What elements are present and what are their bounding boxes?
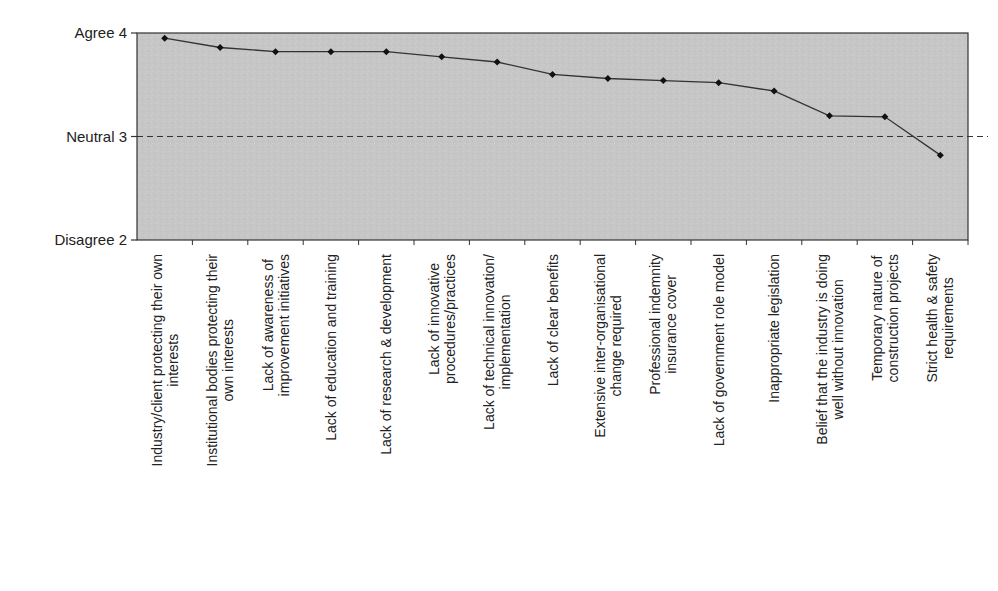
x-category-label: Lack of awareness ofimprovement initiati… — [260, 254, 292, 396]
svg-text:Lack of education and training: Lack of education and training — [323, 254, 339, 441]
y-tick-label: Neutral 3 — [66, 128, 127, 145]
x-axis-ticks — [192, 240, 968, 245]
x-category-label: Lack of technical innovation/implementat… — [481, 254, 513, 430]
svg-text:Lack of research & development: Lack of research & development — [378, 254, 394, 455]
x-category-label: Lack of government role model — [711, 254, 727, 446]
svg-text:Strict health & safety: Strict health & safety — [924, 254, 940, 382]
x-category-label: Extensive inter-organisationalchange req… — [592, 254, 624, 438]
svg-text:Lack of innovative: Lack of innovative — [426, 263, 442, 375]
x-category-label: Inappropriate legislation — [766, 254, 782, 403]
svg-text:Inappropriate legislation: Inappropriate legislation — [766, 254, 782, 403]
svg-text:requirements: requirements — [940, 277, 956, 359]
x-category-label: Professional indemnityinsurance cover — [647, 254, 679, 395]
svg-text:Extensive inter-organisational: Extensive inter-organisational — [592, 254, 608, 438]
y-tick-label: Agree 4 — [74, 24, 127, 41]
x-category-label: Temporary nature ofconstruction projects — [869, 254, 901, 382]
svg-text:Lack of clear benefits: Lack of clear benefits — [545, 254, 561, 386]
svg-text:implementation: implementation — [497, 294, 513, 389]
svg-text:change required: change required — [608, 295, 624, 396]
svg-text:procedures/practices: procedures/practices — [442, 254, 458, 384]
svg-text:well without innovation: well without innovation — [830, 279, 846, 420]
svg-text:interests: interests — [165, 334, 181, 387]
svg-text:Industry/client protecting the: Industry/client protecting their own — [149, 254, 165, 466]
x-category-label: Institutional bodies protecting theirown… — [204, 254, 236, 467]
svg-text:insurance cover: insurance cover — [663, 275, 679, 374]
svg-text:Temporary nature of: Temporary nature of — [869, 255, 885, 380]
x-category-label: Lack of research & development — [378, 254, 394, 455]
svg-text:Lack of awareness of: Lack of awareness of — [260, 259, 276, 391]
svg-text:Lack of government role model: Lack of government role model — [711, 254, 727, 446]
svg-text:own interests: own interests — [220, 319, 236, 401]
svg-text:Institutional bodies protectin: Institutional bodies protecting their — [204, 254, 220, 467]
x-category-label: Industry/client protecting their owninte… — [149, 254, 181, 466]
svg-text:construction projects: construction projects — [885, 254, 901, 382]
x-category-label: Lack of education and training — [323, 254, 339, 441]
x-category-label: Lack of clear benefits — [545, 254, 561, 386]
svg-text:improvement initiatives: improvement initiatives — [276, 254, 292, 396]
y-tick-label: Disagree 2 — [54, 231, 127, 248]
svg-text:Professional indemnity: Professional indemnity — [647, 254, 663, 395]
x-axis-labels: Industry/client protecting their owninte… — [149, 254, 957, 467]
svg-text:Belief that the industry is do: Belief that the industry is doing — [814, 254, 830, 445]
y-axis: Agree 4Neutral 3Disagree 2 — [54, 24, 137, 248]
x-category-label: Strict health & safetyrequirements — [924, 254, 956, 382]
x-category-label: Lack of innovativeprocedures/practices — [426, 254, 458, 384]
line-chart: Agree 4Neutral 3Disagree 2 Industry/clie… — [0, 0, 998, 591]
svg-text:Lack of technical innovation/: Lack of technical innovation/ — [481, 254, 497, 430]
x-category-label: Belief that the industry is doingwell wi… — [814, 254, 846, 445]
